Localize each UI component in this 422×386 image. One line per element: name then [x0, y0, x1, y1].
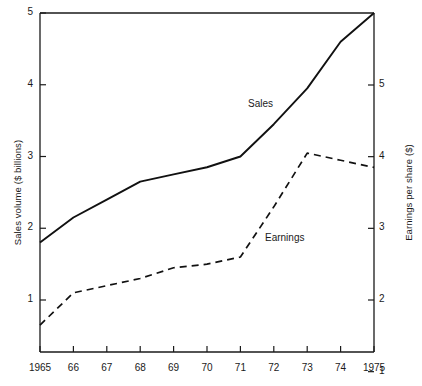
y-tick-label-left-2: 2 [11, 221, 33, 232]
axis-ticks [40, 13, 374, 372]
y-tick-label-left-3: 3 [11, 150, 33, 161]
x-tick-label-1975: 1975 [354, 362, 394, 373]
series-annotation-sales: Sales [248, 98, 273, 109]
y-tick-label-left-4: 4 [11, 78, 33, 89]
chart-container: Sales volume ($ billions) Earnings per s… [0, 0, 422, 386]
right-axis-title: Earnings per share ($) [403, 118, 414, 268]
chart-plot-svg [0, 0, 422, 386]
y-tick-label-left-5: 5 [11, 6, 33, 17]
series-line-earnings [40, 153, 374, 325]
left-axis-title: Sales volume ($ billions) [12, 118, 23, 268]
data-series [40, 13, 374, 325]
series-annotation-earnings: Earnings [265, 232, 304, 243]
y-tick-label-right-3: 3 [379, 221, 401, 232]
y-tick-label-right-2: 2 [379, 293, 401, 304]
y-tick-label-left-1: 1 [11, 293, 33, 304]
y-tick-label-right-5: 5 [379, 78, 401, 89]
y-tick-label-right-4: 4 [379, 150, 401, 161]
series-line-sales [40, 13, 374, 243]
